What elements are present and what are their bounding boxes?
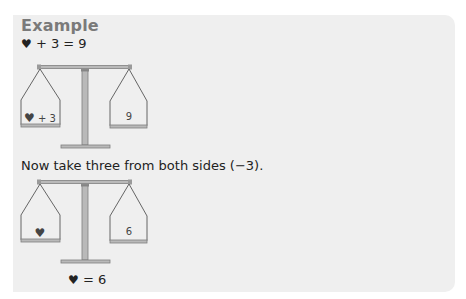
left-pan-label: ♥ — [21, 226, 59, 240]
instruction-text: Now take three from both sides (−3). — [21, 158, 263, 173]
heart-icon: ♥ — [35, 226, 46, 240]
balance-scale-icon — [0, 60, 170, 152]
right-pan-label: 9 — [110, 111, 148, 122]
right-pan-label: 6 — [110, 226, 148, 237]
result-equation: ♥ = 6 — [68, 272, 106, 287]
equation-text: + 3 = 9 — [32, 36, 87, 51]
balance-scale-2: ♥ 6 — [0, 175, 170, 265]
heart-icon: ♥ — [24, 111, 35, 125]
left-pan-label: ♥ + 3 — [21, 111, 59, 125]
balance-scale-1: ♥ + 3 9 — [0, 60, 170, 150]
result-text: = 6 — [79, 272, 106, 287]
example-title: Example — [21, 16, 99, 35]
heart-icon: ♥ — [68, 273, 79, 287]
balance-scale-icon — [0, 175, 170, 267]
heart-icon: ♥ — [21, 37, 32, 51]
initial-equation: ♥ + 3 = 9 — [21, 36, 87, 51]
